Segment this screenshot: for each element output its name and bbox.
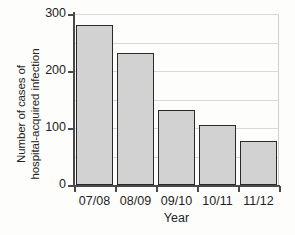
gridline — [74, 14, 279, 15]
y-axis-tick-mark — [68, 128, 74, 130]
x-axis-tick-mark — [238, 186, 240, 192]
bar — [117, 53, 154, 185]
bar — [240, 141, 277, 185]
y-axis-tick-label: 200 — [24, 63, 66, 77]
plot-area — [74, 14, 279, 185]
y-axis-tick-label: 300 — [24, 6, 66, 20]
x-axis-line — [73, 185, 280, 187]
x-axis-tick-label: 11/12 — [232, 194, 286, 208]
y-axis-tick-label: 0 — [24, 177, 66, 191]
x-axis-tick-mark — [156, 186, 158, 192]
x-axis-title: Year — [74, 211, 279, 225]
x-axis-tick-mark — [115, 186, 117, 192]
x-axis-tick-mark — [197, 186, 199, 192]
x-axis-tick-mark — [279, 186, 281, 192]
y-axis-line — [73, 12, 75, 187]
bar — [158, 110, 195, 185]
x-axis-tick-mark — [74, 186, 76, 192]
y-axis-tick-label: 100 — [24, 120, 66, 134]
bar — [199, 125, 236, 185]
bar — [76, 25, 113, 185]
y-axis-tick-mark — [68, 71, 74, 73]
y-axis-tick-mark — [68, 14, 74, 16]
bar-chart-figure: Number of cases of hospital-acquired inf… — [0, 0, 295, 235]
